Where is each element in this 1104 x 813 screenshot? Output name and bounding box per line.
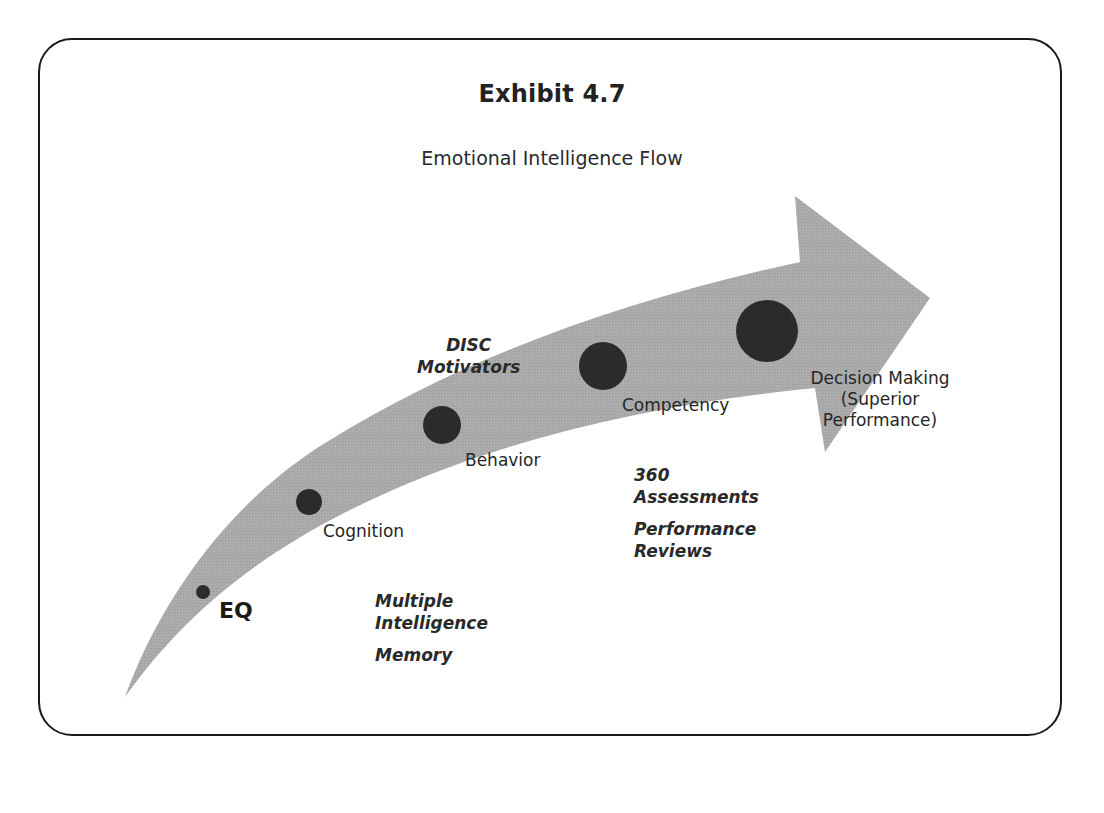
decision-line-2: (Superior [790,389,970,410]
stage-dot-decision [736,300,798,362]
stage-label-behavior: Behavior [465,450,541,471]
note-reviews: Reviews [634,540,759,562]
decision-line-1: Decision Making [790,368,970,389]
decision-line-3: Performance) [790,410,970,431]
note-assessments: Assessments [634,486,759,508]
stage-label-decision: Decision Making (Superior Performance) [790,368,970,431]
note-multiple-intelligence: Multiple Intelligence Memory [375,590,488,666]
stage-label-cognition: Cognition [323,521,404,542]
stage-label-eq: EQ [219,600,253,621]
note-assessments-reviews: 360 Assessments Performance Reviews [634,464,759,562]
note-memory: Memory [375,644,488,666]
stage-dot-cognition [296,489,322,515]
stage-dot-behavior [423,406,461,444]
note-disc-motivators: DISC Motivators [417,334,520,378]
note-multiple-line-1: Multiple [375,590,488,612]
stage-dot-competency [579,342,627,390]
stage-label-competency: Competency [622,395,729,416]
note-performance: Performance [634,518,759,540]
note-multiple-line-2: Intelligence [375,612,488,634]
note-disc-line-1: DISC [417,334,520,356]
note-360: 360 [634,464,759,486]
stage-dot-eq [196,585,210,599]
note-disc-line-2: Motivators [417,356,520,378]
